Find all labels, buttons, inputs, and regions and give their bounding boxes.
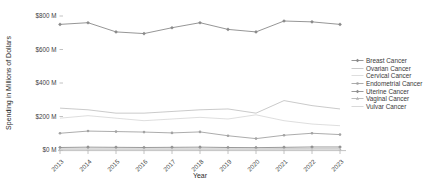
line-legend-marker-icon [351, 65, 364, 72]
data-point-marker [199, 131, 202, 134]
legend: Breast CancerOvarian CancerCervical Canc… [351, 57, 422, 110]
legend-item-breast-cancer: Breast Cancer [351, 57, 422, 65]
series-line-ovarian-cancer [60, 101, 340, 114]
diamond-legend-marker-icon [351, 57, 364, 64]
line-legend-marker-icon [351, 72, 364, 79]
legend-marker-shape [356, 89, 360, 93]
legend-item-vulvar-cancer: Vulvar Cancer [351, 103, 422, 111]
series-line-cervical-cancer [60, 115, 340, 126]
legend-marker-shape [356, 82, 359, 85]
x-tick-label: 2013 [50, 157, 65, 172]
triangle-legend-marker-icon [351, 95, 364, 102]
legend-item-label: Vaginal Cancer [366, 95, 409, 102]
data-point-marker [339, 133, 342, 136]
legend-item-label: Endometrial Cancer [366, 80, 422, 87]
legend-item-vaginal-cancer: Vaginal Cancer [351, 95, 422, 103]
y-tick-label: $400 M [35, 79, 56, 86]
data-point-marker [170, 26, 174, 30]
data-point-marker [311, 132, 314, 135]
data-point-marker [198, 21, 202, 25]
x-tick-label: 2023 [330, 157, 345, 172]
x-tick-label: 2016 [134, 157, 149, 172]
data-point-marker [59, 132, 62, 135]
legend-item-label: Uterine Cancer [366, 88, 409, 95]
data-point-marker [282, 19, 286, 23]
y-axis-title: Spending in Millions of Dollars [5, 36, 13, 130]
legend-item-label: Vulvar Cancer [366, 103, 406, 110]
cancer-spending-line-chart: $0 M$200 M$400 M$600 M$800 M201320142015… [0, 0, 442, 188]
x-tick-label: 2018 [190, 157, 205, 172]
data-point-marker [114, 30, 118, 34]
data-point-marker [171, 132, 174, 135]
legend-item-uterine-cancer: Uterine Cancer [351, 87, 422, 95]
line-legend-marker-icon [351, 103, 364, 110]
data-point-marker [255, 137, 258, 140]
data-point-marker [283, 134, 286, 137]
data-point-marker [227, 134, 230, 137]
legend-item-cervical-cancer: Cervical Cancer [351, 72, 422, 80]
diamond-legend-marker-icon [351, 88, 364, 95]
data-point-marker [338, 23, 342, 27]
x-tick-label: 2015 [106, 157, 121, 172]
data-point-marker [226, 28, 230, 32]
legend-item-label: Ovarian Cancer [366, 65, 411, 72]
data-point-marker [143, 131, 146, 134]
y-tick-label: $200 M [35, 113, 56, 120]
legend-item-ovarian-cancer: Ovarian Cancer [351, 65, 422, 73]
y-tick-label: $600 M [35, 46, 56, 53]
data-point-marker [115, 130, 118, 133]
data-point-marker [87, 130, 90, 133]
legend-marker-shape [356, 59, 360, 63]
data-point-marker [86, 21, 90, 25]
x-tick-label: 2014 [78, 157, 93, 172]
y-tick-label: $800 M [35, 12, 56, 19]
x-tick-label: 2017 [162, 157, 177, 172]
legend-item-label: Breast Cancer [366, 57, 407, 64]
x-tick-label: 2020 [246, 157, 261, 172]
data-point-marker [58, 23, 62, 27]
x-axis-title: Year [193, 172, 208, 179]
x-tick-label: 2021 [274, 157, 289, 172]
y-tick-label: $0 M [43, 146, 57, 153]
circle-legend-marker-icon [351, 80, 364, 87]
x-tick-label: 2022 [302, 157, 317, 172]
legend-item-label: Cervical Cancer [366, 72, 411, 79]
legend-item-endometrial-cancer: Endometrial Cancer [351, 80, 422, 88]
data-point-marker [254, 30, 258, 34]
x-tick-label: 2019 [218, 157, 233, 172]
data-point-marker [142, 32, 146, 36]
data-point-marker [310, 20, 314, 24]
